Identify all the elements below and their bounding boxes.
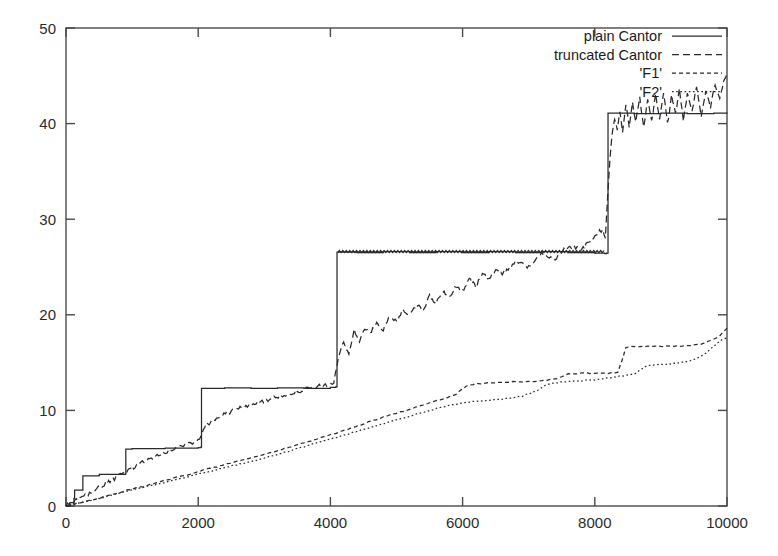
y-tick-label: 30 <box>39 211 56 228</box>
legend-label-3: 'F2' <box>640 84 663 100</box>
y-tick-label: 50 <box>39 20 56 37</box>
y-tick-label: 20 <box>39 306 56 323</box>
y-tick-label: 10 <box>39 402 56 419</box>
legend-label-0: plain Cantor <box>584 28 662 44</box>
x-tick-label: 6000 <box>446 514 479 531</box>
y-tick-label: 40 <box>39 115 56 132</box>
x-tick-label: 4000 <box>314 514 347 531</box>
legend-label-2: 'F1' <box>640 65 663 81</box>
x-tick-label: 0 <box>62 514 70 531</box>
x-tick-label: 10000 <box>706 514 748 531</box>
y-tick-label: 0 <box>48 498 56 515</box>
cantor-function-chart: 01020304050 0200040006000800010000 plain… <box>0 0 778 556</box>
legend-label-1: truncated Cantor <box>554 47 662 63</box>
x-tick-label: 2000 <box>182 514 215 531</box>
chart-root: 01020304050 0200040006000800010000 plain… <box>0 0 778 556</box>
x-tick-label: 8000 <box>578 514 611 531</box>
